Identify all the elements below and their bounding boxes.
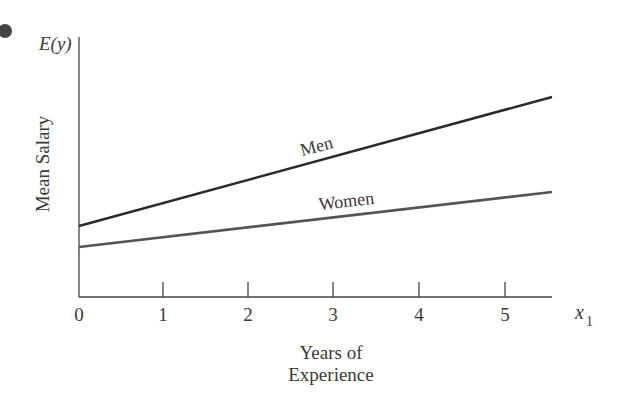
x-axis-symbol: x bbox=[574, 301, 584, 323]
x-tick-label: 2 bbox=[243, 304, 253, 325]
series-label-women: Women bbox=[318, 188, 375, 214]
x-tick-label: 0 bbox=[74, 304, 84, 325]
series-line-men bbox=[79, 97, 552, 226]
series-label-men: Men bbox=[298, 132, 335, 160]
x-axis-symbol-subscript: 1 bbox=[586, 314, 593, 329]
x-tick-label: 3 bbox=[328, 304, 338, 325]
x-tick-labels: 0 1 2 3 4 5 bbox=[74, 304, 510, 325]
chart-canvas: 0 1 2 3 4 5 x 1 E(y) Mean Salary Years o… bbox=[0, 0, 621, 407]
series-line-women bbox=[79, 192, 552, 247]
x-ticks bbox=[163, 282, 505, 297]
y-axis-symbol: E(y) bbox=[38, 33, 72, 55]
x-axis-label-line2: Experience bbox=[288, 364, 373, 385]
x-tick-label: 1 bbox=[158, 304, 168, 325]
x-tick-label: 4 bbox=[414, 304, 424, 325]
bullet-marker bbox=[0, 24, 12, 38]
y-axis-label: Mean Salary bbox=[32, 115, 53, 212]
x-axis-label-line1: Years of bbox=[300, 342, 364, 363]
x-tick-label: 5 bbox=[500, 304, 510, 325]
